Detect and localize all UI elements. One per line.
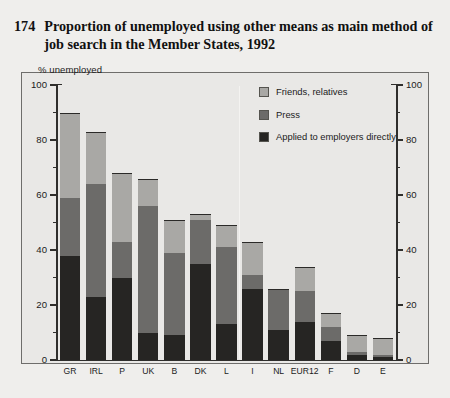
y-tick-major-0-l <box>50 359 57 360</box>
bar-segment-gr-applied-to-employers-directly <box>60 256 80 361</box>
bar-segment-i-press <box>242 275 262 289</box>
y-tick-major-20-r <box>396 304 403 305</box>
x-tick-label-d: D <box>354 366 360 376</box>
bar-uk <box>138 179 158 361</box>
legend-item-press: Press <box>259 109 396 121</box>
bar-segment-f-friends-relatives <box>321 313 341 327</box>
legend-item-applied-directly: Applied to employers directly <box>259 131 396 143</box>
bar-segment-d-applied-to-employers-directly <box>347 355 367 361</box>
y-tick-minor-90-r <box>396 112 400 113</box>
bar-segment-nl-press <box>268 289 288 330</box>
y-tick-major-80-r <box>396 139 403 140</box>
y-tick-label-right-20: 20 <box>406 299 432 310</box>
bar-segment-b-press <box>164 253 184 336</box>
x-tick-label-e: E <box>380 366 386 376</box>
bar-b <box>164 220 184 360</box>
y-tick-label-right-60: 60 <box>406 189 432 200</box>
y-tick-major-20-l <box>50 304 57 305</box>
legend-label-friends-relatives: Friends, relatives <box>276 86 347 98</box>
y-tick-label-left-40: 40 <box>21 244 47 255</box>
bar-eur12 <box>295 267 315 361</box>
bar-segment-nl-applied-to-employers-directly <box>268 330 288 360</box>
y-tick-label-right-100: 100 <box>406 79 432 90</box>
bar-segment-irl-press <box>86 184 106 297</box>
bar-segment-e-friends-relatives <box>373 338 393 355</box>
bar-nl <box>268 289 288 361</box>
bar-segment-irl-friends-relatives <box>86 132 106 184</box>
x-tick-label-l: L <box>224 366 229 376</box>
x-tick-label-gr: GR <box>64 366 77 376</box>
bar-segment-p-friends-relatives <box>112 173 132 242</box>
bar-segment-p-press <box>112 242 132 278</box>
y-tick-minor-70-r <box>396 167 400 168</box>
x-tick-label-irl: IRL <box>89 366 102 376</box>
bar-e <box>373 338 393 360</box>
bar-segment-uk-friends-relatives <box>138 179 158 207</box>
y-tick-major-100-l <box>50 84 57 85</box>
bar-segment-uk-press <box>138 206 158 333</box>
x-tick-label-b: B <box>171 366 177 376</box>
bar-segment-f-press <box>321 327 341 341</box>
bar-segment-eur12-applied-to-employers-directly <box>295 322 315 361</box>
y-tick-minor-30-r <box>396 277 400 278</box>
bar-segment-dk-applied-to-employers-directly <box>190 264 210 360</box>
figure-number: 174 <box>14 18 35 36</box>
y-tick-major-60-l <box>50 194 57 195</box>
bar-segment-l-applied-to-employers-directly <box>216 324 236 360</box>
bar-segment-b-friends-relatives <box>164 220 184 253</box>
bar-segment-e-applied-to-employers-directly <box>373 357 393 360</box>
bar-segment-irl-applied-to-employers-directly <box>86 297 106 360</box>
y-tick-major-80-l <box>50 139 57 140</box>
legend-label-applied-directly: Applied to employers directly <box>276 131 396 143</box>
bar-segment-l-press <box>216 247 236 324</box>
y-tick-minor-10-r <box>396 332 400 333</box>
chart-legend: Friends, relativesPressApplied to employ… <box>259 86 396 154</box>
y-tick-major-40-l <box>50 249 57 250</box>
bar-segment-f-applied-to-employers-directly <box>321 341 341 360</box>
group-divider <box>239 86 240 359</box>
y-tick-label-right-40: 40 <box>406 244 432 255</box>
bar-segment-eur12-friends-relatives <box>295 267 315 292</box>
bar-segment-gr-press <box>60 198 80 256</box>
page-title: Proportion of unemployed using other mea… <box>44 18 438 53</box>
figure-title-block: 174 Proportion of unemployed using other… <box>14 18 438 53</box>
y-tick-major-60-r <box>396 194 403 195</box>
bar-segment-l-friends-relatives <box>216 225 236 247</box>
y-tick-major-100-r <box>396 84 403 85</box>
legend-swatch-applied-directly-icon <box>259 132 269 142</box>
legend-item-friends-relatives: Friends, relatives <box>259 86 396 98</box>
y-tick-label-left-0: 0 <box>21 354 47 365</box>
x-tick-label-i: I <box>251 366 253 376</box>
x-tick-label-eur12: EUR12 <box>291 366 319 376</box>
y-tick-label-left-60: 60 <box>21 189 47 200</box>
bar-i <box>242 242 262 360</box>
x-tick-label-f: F <box>328 366 333 376</box>
y-tick-major-0-r <box>396 359 403 360</box>
y-tick-label-left-80: 80 <box>21 134 47 145</box>
bar-l <box>216 225 236 360</box>
x-tick-label-p: P <box>119 366 125 376</box>
y-tick-label-right-0: 0 <box>406 354 432 365</box>
bar-segment-dk-press <box>190 220 210 264</box>
bar-segment-i-friends-relatives <box>242 242 262 275</box>
bar-p <box>112 173 132 360</box>
y-tick-minor-50-r <box>396 222 400 223</box>
bar-gr <box>60 113 80 361</box>
y-axis-caption: % unemployed <box>38 64 102 75</box>
y-tick-label-right-80: 80 <box>406 134 432 145</box>
x-tick-label-dk: DK <box>194 366 206 376</box>
bar-segment-gr-friends-relatives <box>60 113 80 198</box>
bar-d <box>347 335 367 360</box>
figure-panel: 174 Proportion of unemployed using other… <box>0 0 450 398</box>
bar-dk <box>190 214 210 360</box>
bar-segment-uk-applied-to-employers-directly <box>138 333 158 361</box>
legend-label-press: Press <box>276 109 300 121</box>
y-tick-major-40-r <box>396 249 403 250</box>
bar-f <box>321 313 341 360</box>
x-tick-label-uk: UK <box>142 366 154 376</box>
x-tick-label-nl: NL <box>273 366 284 376</box>
bar-segment-eur12-press <box>295 291 315 321</box>
bar-segment-d-friends-relatives <box>347 335 367 352</box>
legend-swatch-friends-relatives-icon <box>259 87 269 97</box>
legend-swatch-press-icon <box>259 110 269 120</box>
